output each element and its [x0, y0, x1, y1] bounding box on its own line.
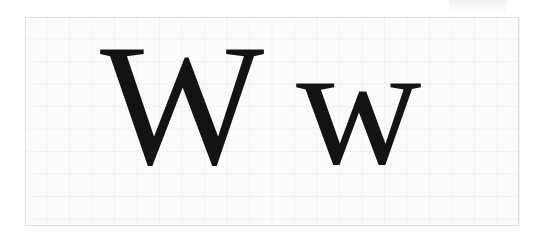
graph-paper-grid	[25, 17, 520, 227]
letter-specimen-canvas: W w	[0, 0, 542, 238]
scan-smudge-artifact	[449, 0, 507, 13]
